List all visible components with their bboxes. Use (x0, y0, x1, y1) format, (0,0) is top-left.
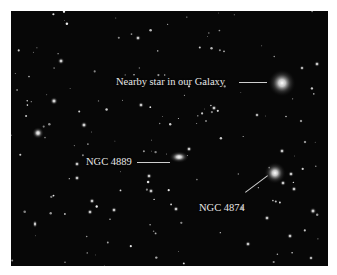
galaxy-7 (89, 198, 95, 204)
faint-star (44, 137, 46, 139)
faint-star (151, 151, 152, 152)
faint-star (180, 222, 182, 224)
faint-star (33, 52, 34, 53)
faint-star (196, 123, 197, 124)
faint-star (16, 89, 18, 91)
faint-star (316, 213, 318, 215)
faint-star (11, 134, 12, 136)
leader-line-ngc-4889 (137, 162, 170, 163)
faint-star (277, 253, 279, 255)
faint-star (118, 37, 120, 39)
galaxy-4 (81, 122, 88, 129)
faint-star (35, 235, 36, 236)
faint-star (155, 232, 157, 234)
faint-star (201, 112, 203, 114)
faint-star (64, 20, 65, 21)
faint-star (159, 123, 160, 124)
faint-star (218, 13, 219, 14)
faint-star (26, 100, 27, 101)
faint-star (155, 256, 157, 258)
galaxy-3 (58, 58, 65, 65)
faint-star (265, 116, 266, 117)
faint-star (169, 123, 171, 125)
faint-star (304, 229, 306, 231)
faint-star (57, 53, 58, 54)
faint-star (210, 47, 212, 49)
faint-star (11, 260, 13, 262)
faint-star (184, 95, 185, 96)
faint-star (98, 100, 99, 101)
faint-star (170, 203, 172, 205)
faint-star (74, 145, 75, 146)
faint-star (273, 261, 275, 263)
faint-star (86, 236, 88, 238)
faint-star (302, 168, 304, 170)
faint-star (317, 238, 318, 239)
faint-star (186, 16, 187, 17)
faint-star (157, 50, 159, 52)
faint-star (115, 18, 116, 19)
faint-star (64, 262, 66, 264)
faint-star (95, 254, 96, 255)
leader-line-nearby-star (239, 82, 267, 83)
galaxy-20 (173, 206, 179, 212)
faint-star (147, 181, 150, 184)
faint-star (15, 73, 16, 74)
faint-star (168, 189, 170, 191)
faint-star (279, 202, 281, 204)
galaxy-28 (314, 61, 320, 67)
faint-star (27, 104, 29, 106)
faint-star (219, 49, 221, 51)
faint-star (114, 141, 115, 142)
faint-star (130, 245, 132, 247)
galaxy-31 (299, 119, 303, 123)
faint-star (149, 224, 151, 226)
galaxy-22 (111, 207, 117, 213)
faint-star (18, 49, 20, 51)
faint-star (96, 205, 98, 207)
faint-star (199, 47, 201, 49)
galaxy-6 (74, 175, 80, 181)
faint-star (120, 190, 122, 192)
faint-star (223, 50, 225, 52)
faint-star (139, 67, 141, 69)
faint-star (82, 154, 84, 156)
faint-star (258, 187, 259, 188)
faint-star (294, 155, 295, 156)
faint-star (234, 14, 235, 15)
faint-star (43, 126, 45, 128)
faint-star (240, 92, 241, 93)
faint-star (69, 178, 70, 179)
galaxy-2 (50, 97, 58, 105)
faint-star (204, 109, 205, 110)
faint-star (293, 182, 294, 183)
faint-star (25, 115, 27, 117)
faint-star (28, 76, 30, 78)
faint-star (105, 108, 107, 110)
galaxy-26 (287, 233, 293, 239)
faint-star (210, 105, 211, 106)
nearby-star (268, 69, 296, 97)
faint-star (52, 13, 54, 15)
faint-star (50, 196, 52, 198)
galaxy-16 (279, 148, 285, 154)
faint-star (311, 87, 313, 89)
faint-star (220, 232, 221, 233)
faint-star (94, 70, 96, 72)
faint-star (31, 101, 32, 102)
faint-star (207, 36, 208, 37)
faint-star (275, 200, 277, 202)
faint-star (217, 110, 219, 112)
galaxy-19 (264, 215, 270, 221)
faint-star (36, 47, 37, 48)
faint-star (122, 100, 123, 101)
galaxy-5 (74, 161, 80, 167)
faint-star (311, 11, 312, 12)
faint-star (154, 151, 156, 153)
faint-star (63, 11, 65, 13)
faint-star (211, 111, 213, 113)
faint-star (315, 142, 316, 143)
faint-star (268, 167, 270, 169)
faint-star (151, 140, 152, 141)
galaxy-25 (245, 241, 251, 247)
